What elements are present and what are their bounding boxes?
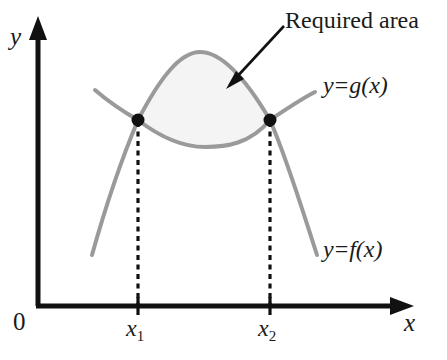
tick-label-x2-subscript: 2 [269, 328, 277, 344]
g-curve-label: y=g(x) [323, 73, 388, 97]
y-axis-label: y [10, 24, 21, 49]
tick-label-x2-base: x [258, 315, 269, 341]
area-between-curves-figure: y x 0 x1 x2 y=g(x) y=f(x) Required area [0, 0, 447, 360]
g-curve-label-y: y [323, 72, 334, 98]
intersection-point-x1 [132, 114, 145, 127]
tick-label-x1: x1 [126, 316, 144, 344]
required-area-annotation: Required area [285, 8, 419, 32]
tick-label-x2: x2 [258, 316, 276, 344]
annotation-arrow-shaft [234, 26, 284, 80]
g-curve-label-equals: = [334, 72, 350, 98]
f-curve-label-y: y [323, 236, 334, 262]
x-axis-label: x [404, 310, 415, 335]
tick-label-x1-subscript: 1 [137, 328, 145, 344]
intersection-point-x2 [264, 114, 277, 127]
y-axis-arrowhead [29, 16, 47, 40]
f-curve-label-equals: = [334, 236, 350, 262]
origin-label: 0 [13, 309, 26, 334]
figure-canvas [0, 0, 447, 360]
f-curve-label: y=f(x) [323, 237, 383, 261]
tick-label-x1-base: x [126, 315, 137, 341]
g-curve-label-fn: g(x) [349, 72, 388, 98]
f-curve-label-fn: f(x) [349, 236, 382, 262]
